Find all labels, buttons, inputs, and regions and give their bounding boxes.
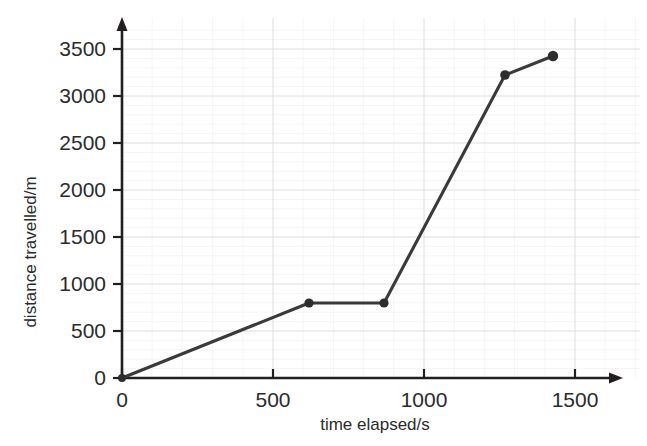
data-point [548, 51, 558, 61]
y-tick-label: 3500 [59, 37, 106, 60]
x-axis-title: time elapsed/s [320, 415, 430, 434]
y-tick-label: 500 [71, 319, 106, 342]
data-point [304, 298, 313, 307]
x-tick-label: 500 [255, 388, 290, 411]
chart-container: 3500 3000 2500 2000 1500 1000 500 0 0 50… [0, 0, 647, 446]
y-tick-label: 3000 [59, 84, 106, 107]
data-point [379, 298, 388, 307]
data-point [118, 374, 126, 382]
y-axis-title: distance travelled/m [21, 176, 40, 327]
y-tick-label: 0 [94, 366, 106, 389]
y-tick-label: 2000 [59, 178, 106, 201]
x-tick-label: 1500 [552, 388, 599, 411]
x-tick-label: 0 [116, 388, 128, 411]
y-tick-label: 1500 [59, 225, 106, 248]
y-tick-label: 2500 [59, 131, 106, 154]
x-tick-label: 1000 [401, 388, 448, 411]
distance-time-graph: 3500 3000 2500 2000 1500 1000 500 0 0 50… [0, 0, 647, 446]
data-point [500, 70, 510, 80]
y-tick-label: 1000 [59, 272, 106, 295]
